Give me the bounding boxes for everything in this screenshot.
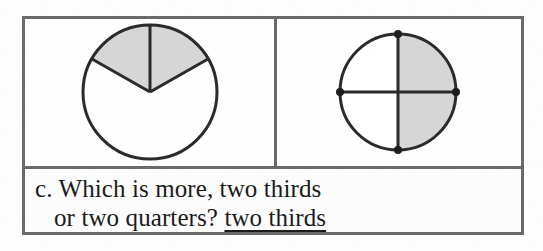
quarters-dot-right	[452, 88, 460, 96]
figure-panel-thirds	[25, 19, 277, 166]
quarters-dot-top	[394, 30, 402, 38]
question-area: c. Which is more, two thirds or two quar…	[25, 169, 521, 232]
quarters-dot-bottom	[394, 146, 402, 154]
question-line-one: c. Which is more, two thirds	[35, 174, 521, 203]
question-prompt-text: or two quarters?	[54, 204, 218, 231]
thirds-circle	[80, 21, 220, 163]
worksheet-page: c. Which is more, two thirds or two quar…	[0, 0, 543, 251]
quarters-dot-left	[336, 88, 344, 96]
exercise-box: c. Which is more, two thirds or two quar…	[22, 16, 524, 235]
quarters-circle	[335, 28, 461, 156]
answer-blank[interactable]: two thirds	[224, 204, 336, 231]
figures-row	[25, 19, 521, 166]
figure-panel-quarters	[277, 19, 521, 166]
question-line-two: or two quarters? two thirds	[35, 203, 521, 232]
